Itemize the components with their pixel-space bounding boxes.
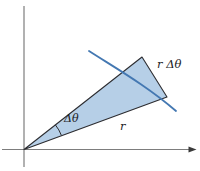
angle-label: Δθ bbox=[63, 112, 79, 125]
sector-diagram-canvas: Δθ r r Δθ bbox=[0, 0, 200, 171]
arc-length-label: r Δθ bbox=[157, 57, 181, 71]
sector-angle-figure: Δθ r r Δθ bbox=[0, 0, 200, 171]
